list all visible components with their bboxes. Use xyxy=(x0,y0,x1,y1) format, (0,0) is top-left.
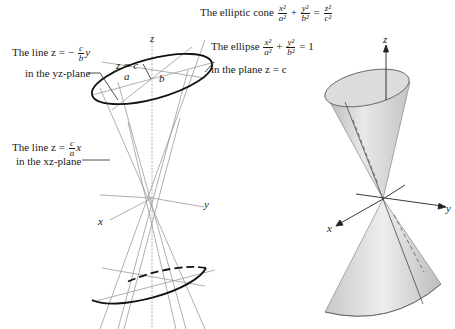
right-y-axis-label: y xyxy=(446,202,451,214)
callout-yz-line-2: in the yz-plane xyxy=(25,67,90,79)
right-x-axis-label: x xyxy=(327,222,332,234)
left-x-axis-label: x xyxy=(98,215,103,227)
semi-axis-a-label: a xyxy=(124,70,130,82)
shaded-cone xyxy=(321,62,441,316)
callout-ellipse: The ellipse x²a² + y²b² = 1 xyxy=(211,38,314,57)
callout-xz-line-2: in the xz-plane xyxy=(16,155,81,167)
right-z-axis-label: z xyxy=(383,33,387,45)
left-z-axis-label: z xyxy=(150,32,154,44)
bottom-ellipse-front xyxy=(92,268,206,304)
callout-yz-line: The line z = − cby xyxy=(12,44,90,63)
callout-ellipse-2: in the plane z = c xyxy=(211,63,287,75)
semi-axis-b-label: b xyxy=(159,72,165,84)
left-y-axis-label: y xyxy=(204,198,209,210)
